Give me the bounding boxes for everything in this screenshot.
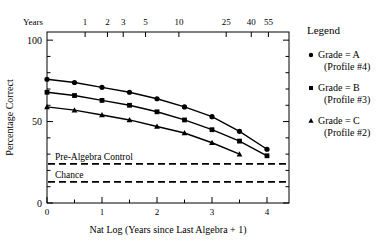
legend-title: Legend (307, 24, 340, 36)
series-marker (72, 80, 77, 85)
legend-entry-sublabel: (Profile #3) (324, 94, 370, 106)
reference-line-label: Pre-Algebra Control (55, 152, 133, 162)
legend-marker-circle (309, 53, 313, 57)
series-marker (237, 129, 242, 134)
chart-figure: Years12351025405501234Nat Log (Years sin… (0, 0, 384, 244)
series-marker (154, 96, 159, 101)
secondary-axis-tick-label: 2 (105, 17, 110, 27)
series-marker (100, 98, 105, 103)
x-axis-tick-label: 3 (210, 207, 215, 217)
series-marker (155, 109, 160, 114)
series-marker (127, 90, 132, 95)
secondary-axis-tick-label: 25 (222, 17, 232, 27)
secondary-axis-tick-label: 10 (174, 17, 184, 27)
reference-line-label: Chance (55, 170, 84, 180)
y-axis-tick-label: 100 (27, 35, 42, 46)
series-marker (45, 90, 50, 95)
legend-marker-square (309, 86, 313, 90)
secondary-axis-tick-label: 3 (121, 17, 126, 27)
series-marker (99, 85, 104, 90)
series-marker (44, 77, 49, 82)
legend-entry-label: Grade = A (318, 49, 361, 60)
secondary-axis-tick-label: 40 (247, 17, 257, 27)
legend-entry-sublabel: (Profile #4) (324, 61, 370, 73)
y-axis-tick-label: 0 (37, 198, 42, 209)
x-axis-tick-label: 2 (155, 207, 160, 217)
y-axis-tick-label: 50 (32, 116, 42, 127)
x-axis-label: Nat Log (Years since Last Algebra + 1) (89, 224, 246, 236)
legend-entry-label: Grade = B (318, 82, 360, 93)
secondary-axis-tick-label: 5 (143, 17, 148, 27)
secondary-axis-tick-label: 55 (264, 17, 274, 27)
series-marker (210, 127, 215, 132)
legend-marker-triangle (308, 118, 313, 123)
series-marker (209, 114, 214, 119)
series-marker (264, 147, 269, 152)
secondary-axis-tick-label: 1 (83, 17, 88, 27)
legend-entry-sublabel: (Profile #2) (324, 127, 370, 139)
series-marker (182, 118, 187, 123)
series-marker (265, 153, 270, 158)
series-marker (182, 104, 187, 109)
series-marker (127, 103, 132, 108)
secondary-axis-label: Years (23, 17, 44, 27)
x-axis-tick-label: 0 (45, 207, 50, 217)
y-axis-label: Percentage Correct (4, 79, 15, 156)
x-axis-tick-label: 4 (265, 207, 270, 217)
series-marker (72, 93, 77, 98)
series-marker (237, 139, 242, 144)
legend-entry-label: Grade = C (318, 115, 360, 126)
chart-svg: Years12351025405501234Nat Log (Years sin… (0, 0, 384, 244)
x-axis-tick-label: 1 (100, 207, 105, 217)
